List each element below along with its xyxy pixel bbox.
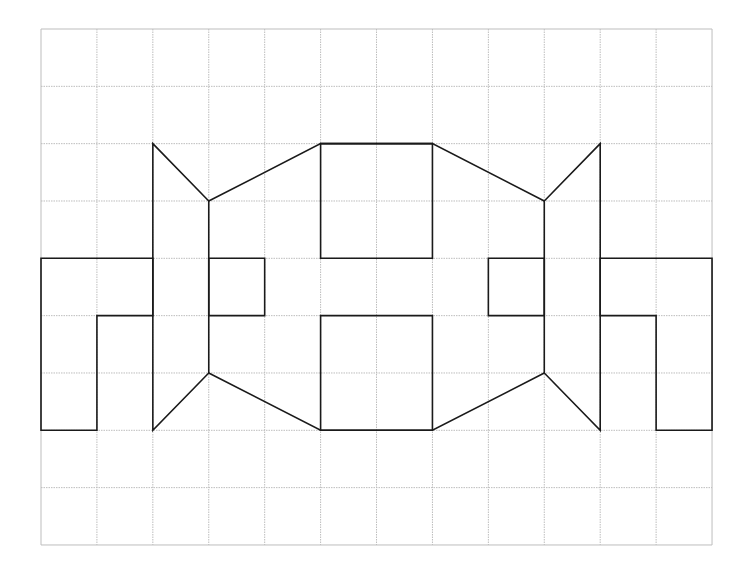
background-grid [41,29,712,545]
left-fin-outer [153,144,209,431]
right-inner-square [488,258,544,315]
left-inner-square [209,258,265,315]
grid-diagram [0,0,744,569]
right-fin-outer [544,144,600,431]
